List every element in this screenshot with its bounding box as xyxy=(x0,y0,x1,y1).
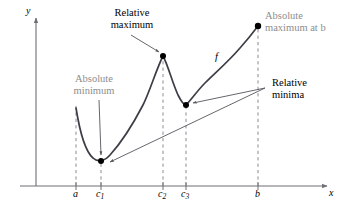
y-axis-label: y xyxy=(26,5,30,16)
tick-label-c2-sub: 2 xyxy=(162,192,166,201)
annotation-relative-minima: Relative minima xyxy=(272,77,307,101)
extrema-figure: y x a c1 c2 c3 b f Relative maximum Abso… xyxy=(0,0,345,211)
arrow-relative-minima-upper xyxy=(193,88,265,103)
axis-group xyxy=(20,18,327,186)
annotation-relative-maximum-line-1: Relative xyxy=(108,7,156,19)
annotation-absolute-maximum-line-1: Absolute xyxy=(265,10,326,22)
annotation-relative-minima-line-2: minima xyxy=(272,89,307,101)
annotation-absolute-maximum: Absolute maximum at b xyxy=(265,10,326,34)
tick-label-c1: c1 xyxy=(96,188,104,201)
point-absolute-maximum xyxy=(255,23,261,29)
annotation-absolute-minimum-line-1: Absolute xyxy=(70,73,118,85)
annotation-arrows xyxy=(99,35,265,162)
tick-label-a: a xyxy=(73,188,78,199)
tick-label-c2: c2 xyxy=(158,188,166,201)
extremum-points xyxy=(98,23,261,164)
annotation-relative-minima-line-1: Relative xyxy=(272,77,307,89)
tick-label-c3: c3 xyxy=(181,188,189,201)
point-relative-minimum xyxy=(183,102,189,108)
tick-label-a-text: a xyxy=(73,188,78,199)
tick-label-b-text: b xyxy=(255,188,260,199)
point-relative-maximum xyxy=(160,53,166,59)
annotation-absolute-maximum-line-2: maximum at b xyxy=(265,22,326,34)
tick-label-b: b xyxy=(255,188,260,199)
annotation-relative-maximum: Relative maximum xyxy=(108,7,156,31)
point-absolute-minimum xyxy=(98,158,104,164)
annotation-absolute-minimum: Absolute minimum xyxy=(70,73,118,97)
arrow-relative-maximum xyxy=(131,35,159,52)
arrow-relative-minima-lower xyxy=(110,88,265,162)
function-label: f xyxy=(215,51,218,63)
annotation-relative-maximum-line-2: maximum xyxy=(108,19,156,31)
tick-label-c1-sub: 1 xyxy=(100,192,104,201)
annotation-absolute-minimum-line-2: minimum xyxy=(70,85,118,97)
x-axis-label: x xyxy=(329,187,333,198)
tick-label-c3-sub: 3 xyxy=(185,192,189,201)
arrow-absolute-minimum xyxy=(99,100,101,155)
